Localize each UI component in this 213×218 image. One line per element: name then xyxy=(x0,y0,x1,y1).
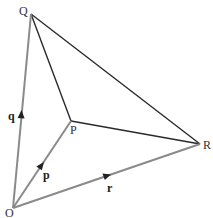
point-label-O: O xyxy=(5,206,14,218)
vector-label-q: q xyxy=(8,109,15,123)
vector-OQ xyxy=(13,14,31,208)
point-label-P: P xyxy=(70,123,77,137)
vector-label-r: r xyxy=(107,181,113,195)
vector-diagram: q p r Q P R O xyxy=(0,0,213,218)
segment-QR xyxy=(31,14,200,144)
vector-label-p: p xyxy=(43,168,50,182)
arrow-q-icon xyxy=(18,110,25,119)
segment-PR xyxy=(71,121,200,144)
point-label-Q: Q xyxy=(19,4,28,18)
point-label-R: R xyxy=(203,138,211,152)
arrow-r-icon xyxy=(103,174,112,181)
